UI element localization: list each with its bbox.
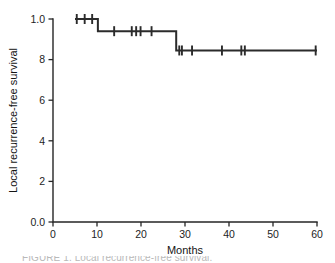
x-tick-label: 10 [91,228,103,240]
figure-caption: FIGURE 1. Local recurrence-free survival… [22,256,212,263]
y-tick-label: 0.0 [30,216,45,228]
y-tick-label: 4 [39,135,45,147]
censor-marks [77,14,316,55]
x-tick-label: 60 [311,228,323,240]
x-tick-label: 0 [50,228,56,240]
x-axis-title: Months [167,244,204,256]
y-axis-title: Local recurrence-free survival [7,48,19,193]
km-survival-chart: 0102030405060 0.024681.0 Months Local re… [0,0,335,263]
x-axis-tick-labels: 0102030405060 [50,228,323,240]
y-tick-label: 8 [39,53,45,65]
x-tick-label: 50 [267,228,279,240]
axis-spine [53,19,317,222]
x-tick-label: 30 [179,228,191,240]
y-tick-label: 6 [39,94,45,106]
y-tick-label: 1.0 [30,13,45,25]
x-tick-label: 40 [223,228,235,240]
survival-step-line [75,19,317,50]
survival-curve [75,19,317,50]
figure-container: 0102030405060 0.024681.0 Months Local re… [0,0,335,263]
y-tick-label: 2 [39,175,45,187]
figure-caption-strip: FIGURE 1. Local recurrence-free survival… [0,256,335,263]
y-axis-tick-labels: 0.024681.0 [30,13,45,228]
x-tick-label: 20 [135,228,147,240]
chart-axes [53,19,317,222]
